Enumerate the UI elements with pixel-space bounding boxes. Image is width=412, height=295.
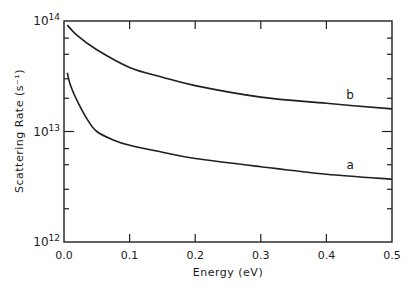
- axis-ticks: [64, 21, 392, 242]
- x-axis-title: Energy (eV): [193, 266, 263, 279]
- scattering-rate-chart: 0.00.10.20.30.40.5 101410131012 ba Energ…: [0, 0, 412, 295]
- curve-b: [67, 25, 392, 109]
- y-tick-label: 1014: [33, 12, 60, 28]
- x-tick-label: 0.1: [121, 249, 139, 262]
- x-tick-label: 0.4: [318, 249, 336, 262]
- x-tick-label: 0.2: [186, 249, 204, 262]
- y-tick-labels: 101410131012: [33, 12, 60, 249]
- y-tick-label: 1012: [33, 233, 60, 249]
- curve-labels: ba: [346, 88, 354, 171]
- plot-border: [64, 21, 392, 242]
- curve-label-b: b: [346, 88, 354, 102]
- curve-a: [67, 73, 392, 179]
- y-axis-title: Scattering Rate (s⁻¹): [13, 69, 26, 193]
- x-tick-label: 0.5: [383, 249, 401, 262]
- x-tick-label: 0.3: [252, 249, 270, 262]
- data-curves: [67, 25, 392, 179]
- x-tick-label: 0.0: [55, 249, 73, 262]
- plot-frame: [64, 21, 392, 242]
- x-tick-labels: 0.00.10.20.30.40.5: [55, 249, 401, 262]
- curve-label-a: a: [346, 158, 353, 172]
- y-tick-label: 1013: [33, 123, 60, 139]
